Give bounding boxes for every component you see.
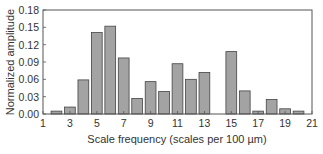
y-axis: 0.000.030.060.090.120.150.18 [19,4,46,120]
x-tick-label: 13 [199,117,211,129]
bar [239,91,250,114]
x-tick-label: 1 [40,117,46,129]
x-tick-label: 3 [67,117,73,129]
bars [51,26,304,114]
y-tick-label: 0.09 [19,56,40,68]
bar [145,82,156,114]
y-tick-label: 0.06 [19,73,40,85]
bar [199,72,210,114]
bar [172,64,183,114]
x-tick-label: 15 [225,117,237,129]
x-tick-label: 5 [94,117,100,129]
bar [78,80,89,114]
x-axis-label: Scale frequency (scales per 100 µm) [87,133,266,145]
x-tick-label: 19 [279,117,291,129]
x-tick-label: 7 [121,117,127,129]
bar [118,58,129,114]
x-tick-label: 21 [306,117,318,129]
y-tick-label: 0.12 [19,39,40,51]
y-tick-label: 0.18 [19,4,40,16]
bar [266,100,277,114]
bar [159,91,170,114]
y-tick-label: 0.15 [19,21,40,33]
bar [91,33,102,114]
x-tick-label: 9 [148,117,154,129]
bar [186,79,197,114]
y-tick-label: 0.03 [19,91,40,103]
x-tick-label: 11 [172,117,183,129]
y-axis-label: Normalized amplitude [4,9,16,115]
x-tick-label: 17 [252,117,264,129]
bar [105,26,116,114]
bar-chart: 0.000.030.060.090.120.150.18 13579111315… [0,0,323,154]
bar [226,52,237,114]
y-tick-label: 0.00 [19,108,40,120]
bar [132,98,143,114]
